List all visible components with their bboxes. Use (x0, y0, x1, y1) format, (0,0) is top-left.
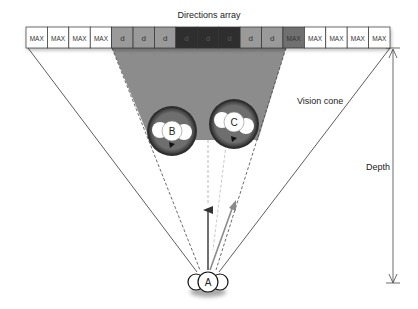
array-cell-label: d (163, 34, 167, 43)
agent-b-label: B (169, 126, 176, 137)
array-cell-label: d (206, 34, 210, 43)
array-cell: MAX (326, 27, 347, 48)
array-cell: MAX (90, 27, 111, 48)
diagram-canvas: B C A Directions array Vision cone Depth… (0, 0, 418, 309)
occluded-region (112, 48, 286, 140)
agent-a-label: A (205, 277, 212, 288)
chosen-velocity-arrow (210, 206, 233, 270)
array-cell-label: d (227, 34, 231, 43)
array-cell-label: d (184, 34, 188, 43)
array-cell: d (176, 27, 197, 48)
agent-a: A (188, 272, 228, 297)
tangent-c-light (213, 145, 226, 250)
array-cell: MAX (26, 27, 47, 48)
obstacle-c: C (209, 99, 259, 149)
array-cell: MAX (304, 27, 325, 48)
array-cell: d (112, 27, 133, 48)
array-cell-label: MAX (308, 35, 323, 42)
array-cell: MAX (69, 27, 90, 48)
obstacle-b: B (147, 106, 197, 156)
directions-array: MAXMAXMAXMAXddddddddMAXMAXMAXMAXMAX (26, 27, 391, 50)
array-cell: d (197, 27, 218, 48)
array-cell: d (133, 27, 154, 48)
array-cell-label: MAX (30, 35, 45, 42)
array-cell-label: MAX (329, 35, 344, 42)
array-cell-label: MAX (287, 35, 302, 42)
array-cell-label: d (120, 34, 124, 43)
array-cell: d (154, 27, 175, 48)
depth-label: Depth (366, 162, 390, 172)
array-cell-label: d (249, 34, 253, 43)
array-cell: MAX (283, 27, 304, 48)
vision-cone-label: Vision cone (297, 96, 343, 106)
directions-array-title: Directions array (177, 10, 241, 20)
array-cell-label: MAX (94, 35, 109, 42)
array-cell-label: MAX (372, 35, 387, 42)
array-cell: MAX (347, 27, 368, 48)
array-cell: d (219, 27, 240, 48)
agent-c-label: C (230, 117, 237, 128)
array-cell: MAX (47, 27, 68, 48)
array-cell-label: MAX (351, 35, 366, 42)
chosen-velocity-arrowhead (229, 200, 236, 211)
array-cell: MAX (369, 27, 390, 48)
array-cell-label: MAX (72, 35, 87, 42)
array-cell-label: MAX (51, 35, 66, 42)
array-cell: d (240, 27, 261, 48)
array-cell-label: d (270, 34, 274, 43)
array-cell: d (262, 27, 283, 48)
array-cell-label: d (142, 34, 146, 43)
